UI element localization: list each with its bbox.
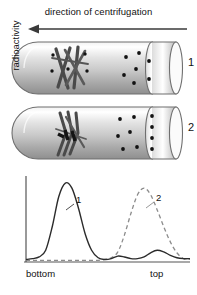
curve-series-2 [26,188,190,260]
tube-1-index-label: 1 [188,56,194,68]
tube-2-mouth [170,107,183,159]
curve-2-leader-line [146,202,154,208]
centrifugation-caption: direction of centrifugation [0,6,197,17]
curve-1-label: 1 [76,194,81,205]
centrifuge-tube-1: 1 [8,38,197,98]
curve-series-1 [26,183,190,260]
x-tick-label-top: top [150,268,163,279]
centrifugation-figure: direction of centrifugation [0,0,197,295]
direction-arrow-wrap [28,22,188,36]
tube-1-body [12,42,152,94]
x-tick-label-bottom: bottom [26,268,55,279]
tube-1-mouth [170,42,183,94]
curve-1-leader-line [66,204,74,210]
left-arrow-icon [28,22,188,36]
tube-2-index-label: 2 [188,121,194,133]
header-area: direction of centrifugation [0,6,197,38]
centrifuge-tube-2: 2 [8,103,197,163]
y-axis-title: radioactivity [10,3,21,89]
curve-2-label: 2 [156,192,161,203]
